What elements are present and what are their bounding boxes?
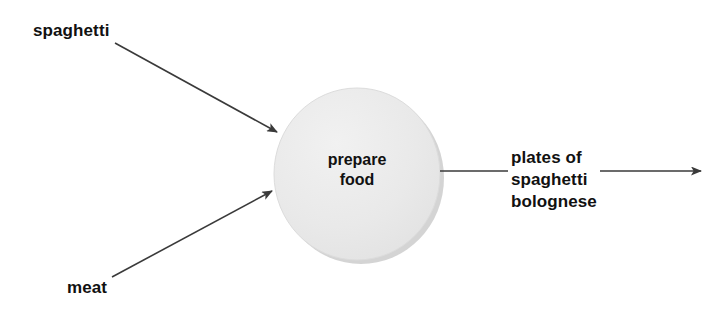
process-label-line1: prepare — [328, 151, 387, 168]
flow-label-output-line1: plates of — [511, 148, 582, 167]
process-label: preparefood — [277, 150, 437, 190]
flow-arrow-spaghetti[interactable] — [115, 43, 277, 132]
flow-arrow-meat[interactable] — [112, 191, 272, 277]
flow-label-meat: meat — [67, 277, 107, 298]
process-label-line2: food — [340, 171, 375, 188]
flow-label-output: plates ofspaghettibolognese — [508, 147, 600, 213]
flow-label-output-line2: spaghetti — [511, 170, 587, 189]
flow-label-spaghetti: spaghetti — [33, 20, 109, 41]
diagram-canvas: preparefood spaghetti meat plates ofspag… — [0, 0, 727, 316]
flow-label-output-line3: bolognese — [511, 192, 597, 211]
